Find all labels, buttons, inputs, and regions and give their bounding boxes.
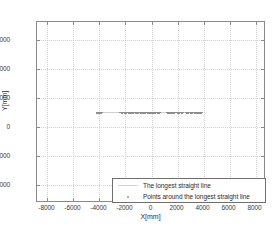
x-tick-label: -8000 (38, 204, 54, 211)
gridline-vertical (230, 22, 231, 201)
gridline-horizontal (37, 156, 264, 157)
gridline-horizontal (37, 69, 264, 70)
x-tick-mark (99, 198, 100, 201)
x-tick-mark (47, 198, 48, 201)
x-tick-mark-top (152, 22, 153, 25)
legend-label-points: Points around the longest straight line (143, 193, 250, 200)
gridline-horizontal (37, 40, 264, 41)
y-tick-label: 0 (6, 123, 10, 130)
y-tick-mark-right (261, 69, 264, 70)
y-tick-label: 6000 (0, 35, 10, 42)
y-tick-mark (37, 127, 40, 128)
y-tick-mark-right (261, 40, 264, 41)
x-tick-label: 8000 (248, 204, 262, 211)
y-tick-label: -4000 (0, 181, 10, 188)
legend-entry-line: The longest straight line (113, 180, 265, 191)
x-tick-label: 0 (149, 204, 153, 211)
y-tick-mark (37, 98, 40, 99)
x-tick-label: -6000 (64, 204, 80, 211)
x-tick-mark-top (99, 22, 100, 25)
data-point (160, 112, 161, 113)
gridline-vertical (256, 22, 257, 201)
x-tick-mark-top (125, 22, 126, 25)
legend-line-marker-icon (113, 180, 143, 191)
x-tick-label: -2000 (116, 204, 132, 211)
legend-label-line: The longest straight line (143, 182, 211, 189)
x-tick-mark-top (256, 22, 257, 25)
x-tick-mark-top (178, 22, 179, 25)
x-tick-label: 4000 (196, 204, 210, 211)
gridline-horizontal (37, 127, 264, 128)
y-tick-mark (37, 185, 40, 186)
x-tick-label: 6000 (222, 204, 236, 211)
x-tick-label: -4000 (90, 204, 106, 211)
y-tick-label: 4000 (0, 64, 10, 71)
gridline-horizontal (37, 98, 264, 99)
y-tick-mark (37, 40, 40, 41)
x-tick-mark-top (73, 22, 74, 25)
y-tick-label: -2000 (0, 152, 10, 159)
x-axis-title: X[mm] (36, 213, 265, 220)
y-tick-label: 2000 (0, 93, 10, 100)
y-tick-mark-right (261, 127, 264, 128)
gridline-vertical (73, 22, 74, 201)
gridline-vertical (47, 22, 48, 201)
x-tick-label: 2000 (169, 204, 183, 211)
legend-dot-marker-icon (113, 191, 143, 202)
y-tick-mark (37, 156, 40, 157)
y-tick-mark (37, 69, 40, 70)
x-tick-mark-top (230, 22, 231, 25)
y-tick-mark-right (261, 98, 264, 99)
data-point (202, 112, 203, 113)
y-tick-mark-right (261, 156, 264, 157)
x-tick-mark-top (47, 22, 48, 25)
scatter-plot-figure: X[mm] Y[mm] The longest straight line Po… (0, 0, 278, 233)
x-tick-mark (73, 198, 74, 201)
plot-area (36, 21, 265, 202)
legend-entry-points: Points around the longest straight line (113, 191, 265, 202)
data-point (102, 112, 103, 113)
gridline-vertical (204, 22, 205, 201)
chart-legend: The longest straight line Points around … (112, 178, 266, 203)
x-tick-mark-top (204, 22, 205, 25)
